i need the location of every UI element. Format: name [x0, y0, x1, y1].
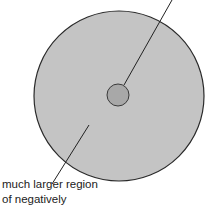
label-line-2: of negatively — [2, 193, 67, 206]
inner-region — [107, 84, 129, 106]
diagram-canvas — [0, 0, 210, 207]
label-line-1: much larger region — [2, 178, 98, 191]
